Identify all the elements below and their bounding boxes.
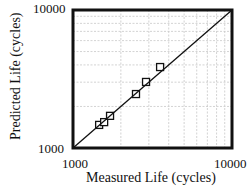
parity-line [73,10,232,148]
plot-area [0,0,249,191]
y-tick-min: 1000 [38,142,64,155]
x-tick-min: 1000 [62,157,88,170]
y-axis-label: Predicted Life (cycles) [8,20,24,140]
y-tick-max: 10000 [33,2,66,15]
x-tick-max: 10000 [214,157,247,170]
log-log-scatter-chart: 10000 1000 1000 10000 Predicted Life (cy… [0,0,249,191]
x-axis-label: Measured Life (cycles) [86,170,216,186]
